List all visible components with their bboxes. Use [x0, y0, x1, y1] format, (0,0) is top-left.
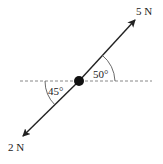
force-diagram: 5 N 2 N 50° 45°: [0, 0, 163, 164]
force-2n-label: 2 N: [8, 141, 24, 153]
force-5n-label: 5 N: [136, 5, 152, 17]
angle-45-label: 45°: [48, 85, 63, 97]
angle-50-label: 50°: [93, 68, 108, 80]
object-dot: [74, 76, 84, 86]
